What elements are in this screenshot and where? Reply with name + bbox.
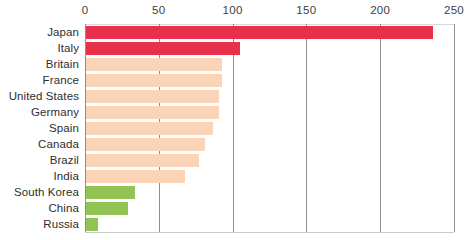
x-tick-label: 0 (82, 4, 89, 16)
bar (85, 138, 205, 151)
category-label: Canada (38, 138, 79, 150)
category-label: Japan (47, 26, 79, 38)
category-label: India (54, 170, 79, 182)
category-label: Russia (43, 218, 79, 230)
bar-row: China (85, 200, 454, 216)
category-label: Britain (46, 58, 79, 70)
bar (85, 106, 219, 119)
category-label: Brazil (50, 154, 79, 166)
x-tick-label: 100 (223, 4, 243, 16)
category-label: United States (9, 90, 79, 102)
bar (85, 42, 240, 55)
bar (85, 74, 222, 87)
bar-row: Spain (85, 120, 454, 136)
bar-chart: 050100150200250 JapanItalyBritainFranceU… (0, 0, 474, 240)
bar-row: India (85, 168, 454, 184)
category-label: China (48, 202, 79, 214)
x-tick-label: 250 (444, 4, 464, 16)
bar (85, 202, 128, 215)
value-axis-baseline (85, 24, 86, 232)
category-label: Spain (49, 122, 79, 134)
bar-row: Britain (85, 56, 454, 72)
bar-row: Brazil (85, 152, 454, 168)
bar (85, 154, 199, 167)
bar (85, 122, 213, 135)
bar-row: France (85, 72, 454, 88)
bar-row: Russia (85, 216, 454, 232)
bar (85, 58, 222, 71)
bar (85, 218, 98, 231)
bar-row: Germany (85, 104, 454, 120)
x-tick-label: 200 (370, 4, 390, 16)
bar-row: South Korea (85, 184, 454, 200)
plot-area: 050100150200250 JapanItalyBritainFranceU… (85, 24, 454, 232)
x-tick-label: 50 (152, 4, 165, 16)
category-label: Germany (31, 106, 79, 118)
category-label: South Korea (14, 186, 79, 198)
gridline-250 (454, 24, 455, 232)
bar-row: Canada (85, 136, 454, 152)
bar (85, 90, 219, 103)
x-tick-label: 150 (296, 4, 316, 16)
category-label: Italy (57, 42, 79, 54)
plot-bottom-rule (85, 232, 454, 233)
bar-row: Japan (85, 24, 454, 40)
bar-row: United States (85, 88, 454, 104)
bar (85, 170, 185, 183)
bar-row: Italy (85, 40, 454, 56)
category-label: France (43, 74, 79, 86)
bar (85, 186, 135, 199)
bar (85, 26, 433, 39)
